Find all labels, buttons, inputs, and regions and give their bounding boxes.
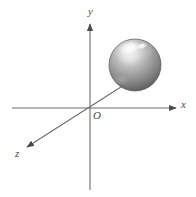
x-axis-label: x — [181, 99, 186, 110]
coordinate-axes-figure: y x z O — [0, 0, 196, 197]
origin-label: O — [93, 110, 101, 121]
sphere-bounce-light — [112, 74, 130, 86]
z-axis-line — [27, 85, 124, 147]
z-axis-label: z — [15, 148, 19, 159]
figure-canvas — [0, 0, 196, 197]
y-axis-label: y — [88, 6, 93, 17]
